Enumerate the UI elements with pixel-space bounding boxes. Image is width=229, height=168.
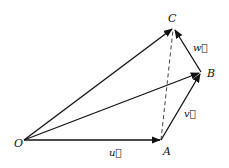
vector-oc-arrow (24, 29, 172, 140)
vector-label-v: v⃗ (184, 108, 196, 119)
vector-label-w: w⃗ (193, 42, 208, 53)
point-label-c: C (168, 12, 177, 25)
vector-label-u: u⃗ (109, 147, 121, 158)
vector-diagram: O A B C u⃗ v⃗ w⃗ (0, 0, 229, 168)
point-label-o: O (14, 137, 23, 150)
point-label-a: A (162, 145, 171, 158)
point-label-b: B (206, 67, 215, 80)
vector-ob-arrow (24, 73, 199, 140)
